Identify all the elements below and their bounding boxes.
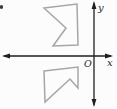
x-axis-label: x [107, 57, 113, 68]
coordinate-plane-figure: y x O [0, 0, 117, 109]
origin-label: O [84, 58, 92, 69]
y-axis-label: y [97, 2, 104, 13]
figure-canvas: y x O [0, 0, 117, 109]
edge-speck [0, 5, 3, 9]
figure-background [0, 0, 117, 109]
